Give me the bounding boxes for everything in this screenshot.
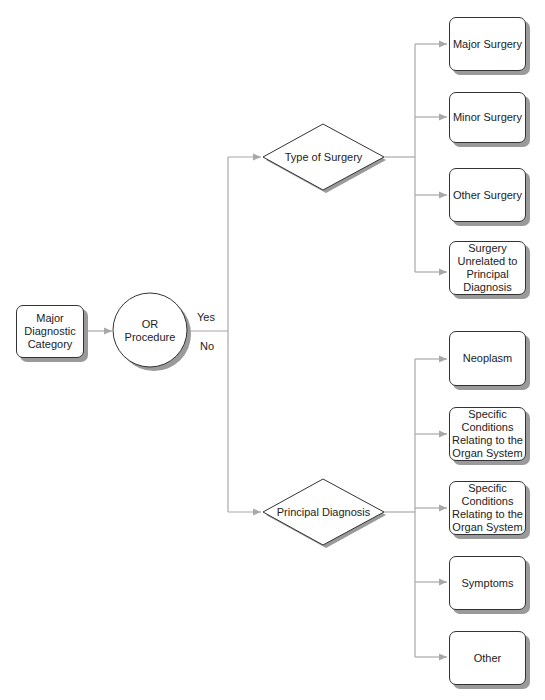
other-surgery-box: Other Surgery [449, 168, 526, 222]
yes-label: Yes [197, 311, 215, 324]
other-box: Other [449, 631, 526, 685]
or-procedure-label: OR Procedure [113, 318, 187, 344]
major-diagnostic-category-box: Major Diagnostic Category [16, 305, 84, 358]
surgery-unrelated-box: Surgery Unrelated to Principal Diagnosis [449, 241, 526, 295]
minor-surgery-box: Minor Surgery [449, 92, 526, 143]
symptoms-box: Symptoms [449, 556, 526, 610]
no-label: No [200, 340, 214, 353]
type-of-surgery-label: Type of Surgery [263, 151, 384, 164]
neoplasm-box: Neoplasm [449, 331, 526, 386]
specific-conditions-box-1: Specific Conditions Relating to the Orga… [449, 407, 526, 461]
principal-diagnosis-label: Principal Diagnosis [263, 506, 384, 519]
specific-conditions-box-2: Specific Conditions Relating to the Orga… [449, 481, 526, 535]
major-surgery-box: Major Surgery [449, 17, 526, 71]
